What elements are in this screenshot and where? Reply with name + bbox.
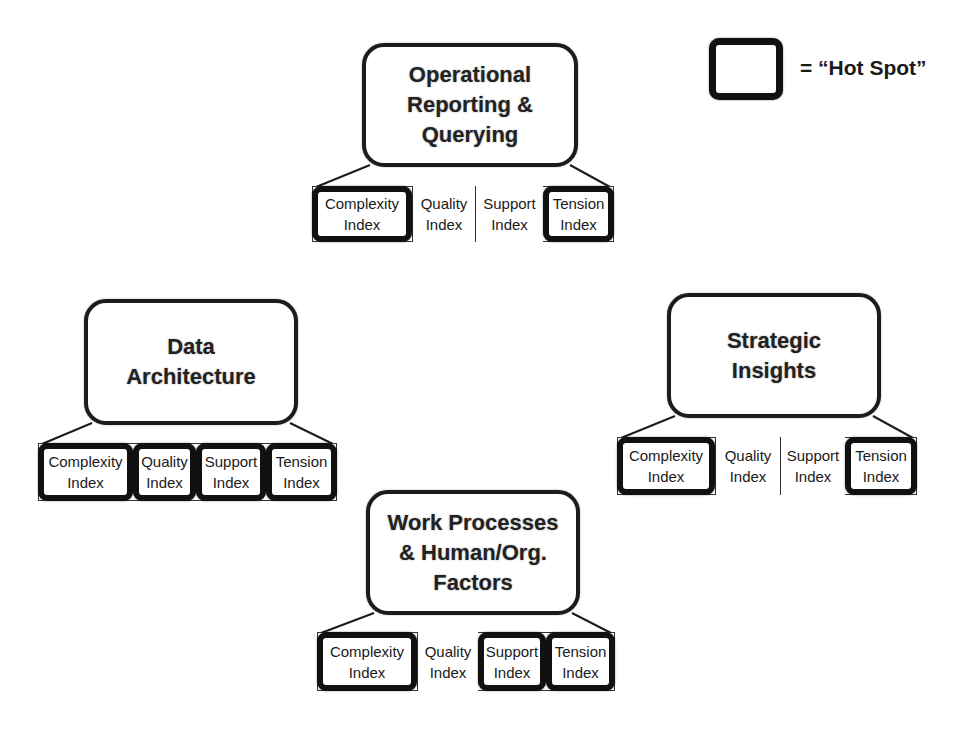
legend-label: = “Hot Spot” [800,56,927,80]
index-suffix: Index [560,214,597,235]
hot-spot-diagram: = “Hot Spot” Operational Reporting & Que… [0,0,971,736]
index-suffix: Index [283,472,320,493]
index-suffix: Index [863,466,900,487]
dimension-title: Operational Reporting & Querying [407,60,533,150]
index-name: Tension [855,445,907,466]
index-suffix: Index [430,662,467,683]
dimension-title: Data Architecture [126,332,256,392]
index-suffix: Index [426,214,463,235]
index-suffix: Index [146,472,183,493]
index-name: Tension [276,451,328,472]
index-name: Support [205,451,258,472]
index-name: Quality [421,193,468,214]
index-cell-quality: QualityIndex [417,632,478,691]
legend-hot-spot-swatch [709,38,783,100]
index-cell-quality: QualityIndex [412,186,475,242]
index-cell-tension-hot-spot: TensionIndex [266,443,337,501]
index-suffix: Index [67,472,104,493]
index-name: Support [787,445,840,466]
index-cell-tension-hot-spot: TensionIndex [546,632,615,691]
index-name: Tension [555,641,607,662]
index-cell-complexity-hot-spot: ComplexityIndex [617,437,715,495]
index-suffix: Index [349,662,386,683]
dimension-box-data-architecture: Data Architecture [84,299,298,425]
index-cell-support: SupportIndex [780,437,845,495]
index-cell-support-hot-spot: SupportIndex [196,443,266,501]
index-cell-quality-hot-spot: QualityIndex [133,443,196,501]
index-cell-quality: QualityIndex [715,437,780,495]
index-cell-tension-hot-spot: TensionIndex [543,186,614,242]
index-cell-support: SupportIndex [475,186,543,242]
index-cell-complexity-hot-spot: ComplexityIndex [317,632,417,691]
index-suffix: Index [491,214,528,235]
index-cell-tension-hot-spot: TensionIndex [845,437,917,495]
dimension-box-work-processes: Work Processes & Human/Org. Factors [366,490,580,615]
index-suffix: Index [494,662,531,683]
index-cell-support-hot-spot: SupportIndex [478,632,546,691]
dimension-box-operational-reporting: Operational Reporting & Querying [362,43,578,167]
index-name: Tension [553,193,605,214]
dimension-box-strategic-insights: Strategic Insights [667,293,881,418]
index-suffix: Index [648,466,685,487]
index-cell-complexity-hot-spot: ComplexityIndex [38,443,133,501]
index-name: Complexity [330,641,404,662]
index-name: Quality [425,641,472,662]
dimension-title: Strategic Insights [727,326,821,386]
index-name: Complexity [629,445,703,466]
index-name: Complexity [48,451,122,472]
index-suffix: Index [344,214,381,235]
index-suffix: Index [730,466,767,487]
index-name: Support [483,193,536,214]
index-name: Quality [141,451,188,472]
index-name: Support [486,641,539,662]
index-name: Quality [725,445,772,466]
index-cell-complexity-hot-spot: ComplexityIndex [312,186,412,242]
index-name: Complexity [325,193,399,214]
index-suffix: Index [562,662,599,683]
index-suffix: Index [213,472,250,493]
index-suffix: Index [795,466,832,487]
dimension-title: Work Processes & Human/Org. Factors [388,508,559,598]
